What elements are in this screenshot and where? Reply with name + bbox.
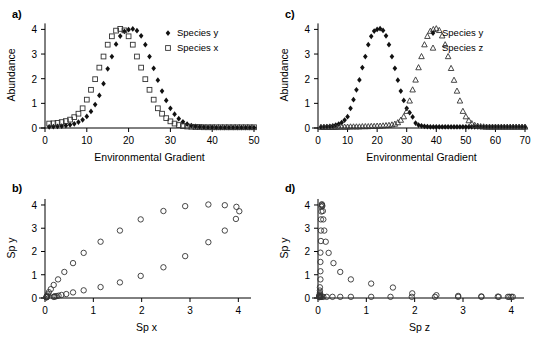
x-tick-label: 50 <box>460 135 472 146</box>
data-point <box>318 277 323 282</box>
panel-d-label: d) <box>285 182 295 194</box>
data-point <box>345 114 350 120</box>
x-tick-label: 0 <box>315 135 321 146</box>
data-point <box>110 34 115 39</box>
data-point <box>117 228 122 233</box>
x-axis-title: Environmental Gradient <box>366 151 476 163</box>
data-point <box>318 250 323 255</box>
x-tick-label: 0 <box>42 305 48 316</box>
data-point <box>360 65 365 71</box>
panel-a: a) 0102030405001234Environmental Gradien… <box>0 0 274 175</box>
data-point <box>348 105 353 111</box>
panel-d: d) 0123401234Sp zSp y <box>273 174 547 347</box>
data-point <box>463 114 469 119</box>
data-point <box>130 26 135 32</box>
data-point <box>369 33 374 39</box>
data-point <box>161 208 166 213</box>
data-point <box>143 42 148 48</box>
y-axis-title: Abundance <box>278 48 290 101</box>
data-point <box>351 97 356 103</box>
data-point <box>151 65 156 71</box>
x-tick-label: 10 <box>81 135 93 146</box>
data-point <box>390 54 395 60</box>
data-point <box>89 87 94 92</box>
y-tick-label: 0 <box>304 293 310 304</box>
data-point <box>206 239 211 244</box>
y-tick-label: 0 <box>31 123 37 134</box>
panel-d-plot: 0123401234Sp zSp y <box>273 174 547 347</box>
data-point <box>368 294 373 299</box>
y-tick-label: 0 <box>31 293 37 304</box>
data-point <box>147 54 152 60</box>
data-point <box>206 202 211 207</box>
x-axis-title: Sp z <box>409 321 430 333</box>
data-point <box>80 117 85 123</box>
data-point <box>399 88 404 94</box>
data-point <box>143 77 148 82</box>
data-point <box>348 277 353 282</box>
y-tick-label: 3 <box>31 49 37 60</box>
data-point <box>401 114 407 119</box>
data-point <box>93 102 98 108</box>
data-point <box>330 294 335 299</box>
data-point <box>233 216 238 221</box>
x-tick-label: 20 <box>372 135 384 146</box>
data-point <box>117 280 122 285</box>
data-point <box>176 116 181 122</box>
data-point <box>182 203 187 208</box>
data-point <box>161 265 166 270</box>
data-point <box>105 42 110 47</box>
x-tick-label: 4 <box>509 305 515 316</box>
data-point <box>138 217 143 222</box>
x-tick-label: 30 <box>165 135 177 146</box>
data-point <box>126 34 131 39</box>
data-point <box>384 33 389 39</box>
legend-label: Species z <box>442 42 483 53</box>
y-axis-title: Sp y <box>278 237 290 259</box>
data-point <box>401 98 406 104</box>
data-point <box>434 293 439 298</box>
x-tick-label: 30 <box>401 135 413 146</box>
data-point <box>393 65 398 71</box>
data-point <box>138 273 143 278</box>
data-point <box>388 294 393 299</box>
data-point <box>331 260 336 265</box>
y-tick-label: 4 <box>304 200 310 211</box>
panel-a-label: a) <box>12 8 21 20</box>
data-point <box>70 290 75 295</box>
data-point <box>160 88 165 94</box>
panel-b-label: b) <box>12 182 22 194</box>
data-point <box>234 204 239 209</box>
y-tick-label: 2 <box>304 74 310 85</box>
series-species-x <box>47 27 257 130</box>
data-point <box>114 41 119 47</box>
legend: Species ySpecies x <box>166 27 219 53</box>
panel-b: b) 0123401234Sp xSp y <box>0 174 274 347</box>
data-point <box>76 119 81 125</box>
data-point <box>97 65 102 70</box>
data-point <box>425 33 431 38</box>
data-point <box>410 114 415 120</box>
data-point <box>416 65 422 70</box>
y-tick-label: 1 <box>31 98 37 109</box>
data-point <box>396 77 401 83</box>
data-point <box>130 42 135 47</box>
data-point <box>135 54 140 59</box>
y-tick-label: 3 <box>304 223 310 234</box>
data-point <box>222 203 227 208</box>
data-point <box>110 54 115 60</box>
x-tick-label: 3 <box>460 305 466 316</box>
data-point <box>222 228 227 233</box>
y-tick-label: 2 <box>31 246 37 257</box>
y-tick-label: 0 <box>304 123 310 134</box>
data-point <box>147 87 152 92</box>
data-point <box>139 33 144 39</box>
legend-marker <box>166 30 171 36</box>
data-point <box>398 117 404 122</box>
data-point <box>387 42 392 48</box>
legend-marker <box>430 45 436 50</box>
data-point <box>422 42 428 47</box>
data-point <box>368 281 373 286</box>
y-tick-label: 4 <box>304 24 310 35</box>
data-point <box>354 87 359 93</box>
